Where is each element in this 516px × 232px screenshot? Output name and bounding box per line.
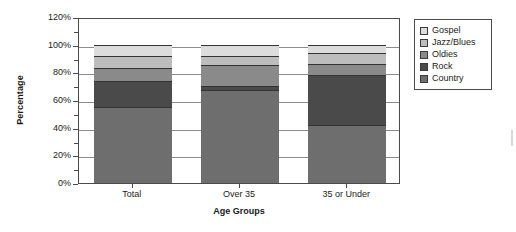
bar-segment — [94, 68, 172, 80]
bar-segment — [94, 56, 172, 68]
legend-label: Gospel — [432, 26, 461, 35]
y-tick-label: 20% — [27, 151, 71, 160]
bar-segment — [94, 107, 172, 183]
legend-label: Oldies — [432, 50, 458, 59]
legend-swatch — [420, 39, 428, 47]
bar-stack — [201, 45, 279, 183]
bar-segment — [308, 53, 386, 64]
legend-swatch — [420, 75, 428, 83]
x-axis-title: Age Groups — [78, 206, 400, 216]
legend-item[interactable]: Country — [420, 73, 487, 84]
legend-swatch — [420, 51, 428, 59]
x-tick — [239, 184, 240, 188]
legend-label: Country — [432, 74, 464, 83]
bar-segment — [308, 125, 386, 183]
plot-area — [78, 18, 400, 184]
x-tick — [132, 184, 133, 188]
x-tick-label: 35 or Under — [293, 189, 400, 200]
y-tick-label: 60% — [27, 96, 71, 105]
bar-stack — [94, 45, 172, 183]
bar-series-container — [79, 19, 399, 183]
bar-segment — [201, 90, 279, 183]
edge-artifact — [511, 130, 513, 146]
bar-segment — [308, 75, 386, 125]
bar-segment — [308, 64, 386, 75]
x-axis-ticks — [78, 184, 400, 188]
bar-stack — [308, 45, 386, 183]
legend-swatch — [420, 63, 428, 71]
bar-segment — [201, 65, 279, 86]
bar-segment — [308, 45, 386, 53]
y-tick-label: 0% — [27, 179, 71, 188]
legend-label: Rock — [432, 62, 453, 71]
legend-item[interactable]: Rock — [420, 61, 487, 72]
y-axis-title: Percentage — [15, 55, 25, 145]
legend-item[interactable]: Gospel — [420, 25, 487, 36]
x-tick-label: Over 35 — [185, 189, 292, 200]
bar-segment — [201, 56, 279, 66]
legend-item[interactable]: Jazz/Blues — [420, 37, 487, 48]
x-tick-label: Total — [78, 189, 185, 200]
legend-swatch — [420, 27, 428, 35]
y-tick-label: 100% — [27, 41, 71, 50]
bar-segment — [201, 45, 279, 56]
x-tick — [346, 184, 347, 188]
stacked-bar-chart: Percentage 0%20%40%60%80%100%120% TotalO… — [0, 0, 516, 232]
y-tick-label: 120% — [27, 13, 71, 22]
x-axis-tick-labels: TotalOver 3535 or Under — [78, 189, 400, 203]
y-tick-label: 80% — [27, 68, 71, 77]
bar-segment — [94, 81, 172, 107]
bar-segment — [94, 45, 172, 56]
legend-item[interactable]: Oldies — [420, 49, 487, 60]
legend-label: Jazz/Blues — [432, 38, 476, 47]
chart-legend: GospelJazz/BluesOldiesRockCountry — [414, 19, 492, 90]
y-tick-label: 40% — [27, 124, 71, 133]
